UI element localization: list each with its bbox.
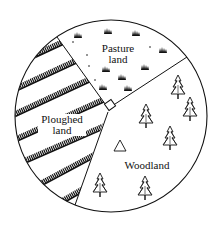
center-marker bbox=[104, 99, 115, 110]
label-ploughed-line2: land bbox=[39, 125, 85, 136]
label-pasture-line2: land bbox=[98, 54, 138, 65]
label-ploughed: Ploughed land bbox=[38, 114, 86, 136]
label-pasture: Pasture land bbox=[98, 43, 138, 65]
land-use-diagram bbox=[0, 0, 220, 230]
label-woodland: Woodland bbox=[120, 160, 174, 171]
label-woodland-line1: Woodland bbox=[120, 160, 174, 171]
